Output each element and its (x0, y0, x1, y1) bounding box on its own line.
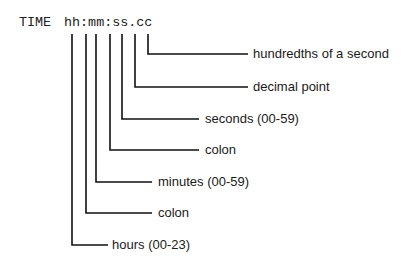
callout-line-hundredths (148, 34, 248, 54)
label-colon-2: colon (205, 143, 236, 156)
label-hours: hours (00-23) (112, 238, 190, 251)
label-decimal-point: decimal point (253, 80, 330, 93)
label-colon-1: colon (158, 206, 189, 219)
label-minutes: minutes (00-59) (158, 175, 249, 188)
label-seconds: seconds (00-59) (205, 112, 299, 125)
callout-line-seconds (122, 34, 199, 119)
callout-lines (0, 0, 404, 265)
callout-line-decimal-point (135, 34, 248, 87)
label-hundredths: hundredths of a second (253, 47, 389, 60)
callout-line-colon-2 (110, 34, 199, 150)
callout-line-minutes (96, 34, 152, 182)
